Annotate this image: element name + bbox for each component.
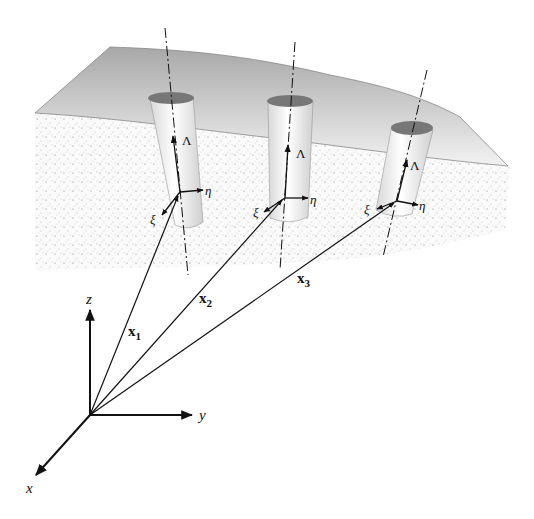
- lambda-label-1: Λ: [182, 133, 192, 148]
- vector-x3-label: x3: [297, 270, 311, 289]
- xi-label-3: ξ: [364, 202, 370, 217]
- diagram-canvas: z y x x1 x2 x3 Λ η ξ Λ η ξ Λ η ξ: [0, 0, 534, 519]
- xi-label-2: ξ: [253, 205, 259, 220]
- lambda-label-2: Λ: [296, 146, 306, 161]
- axis-x: [36, 415, 90, 475]
- axis-y-label: y: [197, 407, 206, 423]
- eta-label-1: η: [205, 183, 211, 198]
- vector-x1-label: x1: [128, 323, 141, 342]
- lambda-label-3: Λ: [410, 158, 420, 173]
- axis-x-label: x: [25, 480, 33, 496]
- eta-label-2: η: [310, 192, 316, 207]
- axis-z-label: z: [85, 291, 92, 307]
- xi-label-1: ξ: [150, 212, 156, 227]
- eta-label-3: η: [419, 198, 425, 213]
- vector-x2-label: x2: [199, 290, 213, 309]
